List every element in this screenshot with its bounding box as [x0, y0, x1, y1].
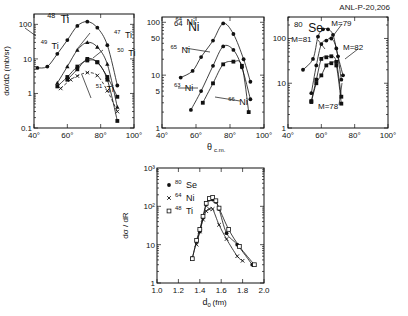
marker-filled-square	[314, 81, 318, 85]
x-axis-label-unit: (fm)	[213, 298, 228, 307]
marker-open-square	[204, 201, 208, 205]
marker-filled-square	[95, 60, 99, 64]
isotope-mass: 48	[47, 12, 55, 20]
marker-filled-circle	[326, 27, 330, 31]
x-tick-label: 80°	[224, 131, 236, 140]
y-tick-label: 1	[28, 89, 33, 98]
annotation-47Ti: 47Ti	[114, 29, 132, 40]
marker-filled-circle	[189, 108, 193, 112]
isotope-symbol: Se	[308, 21, 323, 35]
marker-filled-circle	[311, 57, 315, 61]
marker-filled-square	[339, 102, 343, 106]
x-tick-label: 60°	[61, 131, 73, 140]
marker-filled-triangle	[105, 62, 109, 66]
marker-open-square	[195, 238, 199, 242]
y-tick-label: 5	[156, 87, 161, 96]
annotation-label: M=81	[291, 35, 312, 44]
marker-filled-square	[334, 64, 338, 68]
y-tick-label: 10²	[143, 202, 155, 211]
isotope-mass: 80	[175, 179, 182, 185]
marker-cross	[211, 207, 215, 211]
marker-open-square	[198, 228, 202, 232]
chart-panel-ti: 1001010.140°60°80°100°dσ/dΩ (mb/sr)48Ti4…	[2, 12, 142, 140]
marker-filled-square	[324, 64, 328, 68]
marker-filled-circle	[115, 84, 119, 88]
annotation-label: M=82	[343, 43, 364, 52]
isotope-symbol: Ti	[107, 84, 114, 94]
marker-filled-square	[309, 100, 313, 104]
marker-filled-square	[115, 119, 119, 123]
marker-filled-circle	[324, 39, 328, 43]
figure-canvas: 1001010.140°60°80°100°dσ/dΩ (mb/sr)48Ti4…	[0, 0, 408, 316]
marker-filled-square	[55, 85, 59, 89]
isotope-mass: 47	[114, 29, 121, 35]
marker-filled-square	[319, 73, 323, 77]
marker-open-square	[190, 257, 194, 261]
isotope-symbol: Se	[186, 180, 197, 190]
marker-filled-circle	[191, 69, 195, 73]
annotation-50Ti: 50Ti	[117, 47, 135, 58]
x-tick-label: 100°	[380, 131, 397, 140]
x-axis-label-sub: c.m.	[214, 147, 226, 153]
marker-cross	[217, 223, 221, 227]
marker-filled-square	[211, 81, 215, 85]
marker-filled-circle	[249, 97, 253, 101]
marker-open-square	[227, 228, 231, 232]
y-tick-label: 10	[151, 71, 160, 80]
annotation-51Ti: 51Ti	[96, 83, 114, 94]
annotation-66Ni: 66Ni	[228, 96, 247, 107]
x-tick-label: 100°	[126, 131, 143, 140]
isotope-mass: 64	[175, 192, 182, 198]
marker-filled-circle	[329, 37, 333, 41]
marker-filled-square	[115, 95, 119, 99]
y-tick-label: 10	[23, 55, 32, 64]
marker-filled-circle	[55, 52, 59, 56]
x-tick-label: 1.4	[194, 286, 206, 295]
marker-filled-circle	[35, 66, 39, 70]
marker-filled-square	[240, 64, 244, 68]
x-tick-label: 1.6	[216, 286, 228, 295]
isotope-mass: 49	[41, 39, 48, 45]
series-48ti	[190, 196, 256, 267]
annotation-63Ni: 63Ni	[174, 82, 193, 93]
marker-open-square	[214, 199, 218, 203]
y-tick-label: 10	[146, 241, 155, 250]
series-m78	[309, 61, 343, 105]
marker-filled-circle	[314, 64, 318, 68]
x-tick-label: 60°	[315, 131, 327, 140]
marker-filled-circle	[221, 44, 225, 48]
marker-filled-circle	[334, 47, 338, 51]
marker-cross	[241, 259, 245, 263]
marker-filled-circle	[301, 68, 305, 72]
marker-filled-square	[75, 67, 79, 71]
marker-cross	[167, 196, 171, 200]
marker-cross	[225, 237, 229, 241]
isotope-symbol: Ti	[125, 30, 132, 40]
isotope-mass: 48	[175, 205, 182, 211]
marker-filled-circle	[179, 76, 183, 80]
plot-frame	[157, 168, 264, 283]
marker-cross	[59, 87, 63, 91]
panel-title: 80Se	[294, 20, 323, 35]
legend-item: 48Ti	[175, 205, 193, 216]
marker-filled-circle	[232, 48, 236, 52]
marker-filled-triangle	[55, 81, 59, 85]
y-axis-label: dσ/dΩ (mb/sr)	[2, 46, 11, 96]
marker-filled-square	[232, 60, 236, 64]
leader-arrow	[93, 50, 103, 58]
marker-open-square	[217, 206, 221, 210]
marker-filled-triangle	[65, 64, 69, 68]
marker-filled-square	[201, 101, 205, 105]
x-tick-label: 40°	[156, 131, 168, 140]
marker-filled-square	[85, 57, 89, 61]
marker-filled-circle	[232, 32, 236, 36]
chart-panel-se: 10010140°60°80°100°M=81M=79M=82M=7880Se	[273, 17, 397, 140]
x-tick-label: 80°	[349, 131, 361, 140]
marker-filled-circle	[75, 24, 79, 28]
isotope-symbol: Ti	[52, 41, 59, 51]
x-axis-label-sub: 0	[208, 302, 212, 308]
leader-arrow	[78, 33, 90, 48]
isotope-mass: 64	[174, 19, 183, 28]
chart-panel-dr: 10³10²1011.01.21.41.61.82.0dσ / dRd0(fm)…	[121, 164, 270, 308]
marker-filled-square	[105, 75, 109, 79]
